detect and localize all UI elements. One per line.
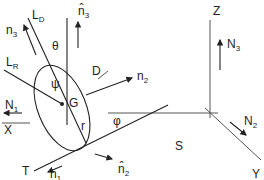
- label-Y: Y: [252, 167, 260, 180]
- label-psi: ψ: [51, 77, 60, 91]
- label-theta: θ: [52, 39, 59, 53]
- label-LR: LR: [6, 55, 19, 71]
- label-G: G: [69, 96, 78, 110]
- label-D: D: [92, 64, 101, 78]
- label-n2: n2: [137, 69, 149, 85]
- n2-arrow: [86, 78, 132, 95]
- label-N2: N2: [244, 114, 258, 130]
- n2hat-arrow: [95, 154, 112, 159]
- label-r: r: [81, 119, 85, 133]
- label-phi: φ: [113, 114, 121, 128]
- label-X: X: [4, 123, 12, 137]
- label-Z: Z: [213, 4, 220, 18]
- label-N1: N1: [5, 98, 19, 114]
- label-N3: N3: [227, 37, 241, 53]
- label-n1: n1: [50, 167, 62, 180]
- label-S: S: [175, 139, 183, 153]
- label-T: T: [22, 164, 30, 178]
- label-n3: n3: [6, 23, 18, 39]
- label-n3hat: n̂3: [78, 3, 90, 20]
- label-LD: LD: [32, 8, 45, 24]
- center-G: [60, 102, 64, 106]
- disk-diagram: LD n̂3 n3 θ LR ψ D n2 N1 X G r φ S T n1 …: [0, 0, 264, 180]
- label-n2hat: n̂2: [118, 161, 130, 178]
- n3-arrow: [24, 25, 36, 55]
- contact-line-T: [34, 105, 168, 171]
